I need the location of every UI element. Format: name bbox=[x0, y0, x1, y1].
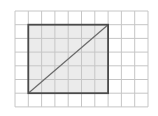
grid-diagram bbox=[0, 0, 158, 116]
